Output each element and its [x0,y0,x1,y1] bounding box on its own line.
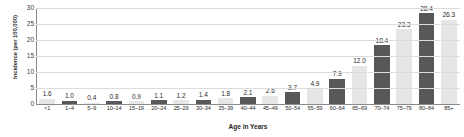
bar-value-label: 12.0 [353,58,366,65]
gridline [36,72,460,73]
gridline [36,24,460,25]
bar[interactable] [285,92,301,104]
bar-value-label: 1.8 [221,91,230,98]
gridline [36,8,460,9]
bar[interactable] [307,88,323,104]
x-tick-label: 25–29 [170,106,192,112]
x-tick-label: 1–4 [58,106,80,112]
y-axis-ticks: 051015202530 [17,8,34,104]
x-tick-label: 60–64 [326,106,348,112]
x-tick-label: 40–44 [237,106,259,112]
bar-value-label: 4.9 [310,81,319,88]
x-tick-label: 15–19 [125,106,147,112]
y-tick-label: 25 [27,21,34,28]
y-tick-label: 20 [27,37,34,44]
bar-value-label: 1.2 [177,93,186,100]
gridline [36,56,460,57]
y-tick-label: 30 [27,5,34,12]
bar-value-label: 2.6 [266,88,275,95]
x-tick-label: 5–9 [81,106,103,112]
bar-value-label: 0.9 [132,94,141,101]
bar-value-label: 1.1 [154,93,163,100]
bar-value-label: 0.4 [87,95,96,102]
y-tick-label: 15 [27,53,34,60]
x-tick-label: 70–74 [371,106,393,112]
y-tick-label: 5 [30,85,34,92]
x-tick-label: 85+ [438,106,460,112]
bar-value-label: 1.0 [65,93,74,100]
x-tick-label: 75–79 [393,106,415,112]
bar[interactable] [396,29,412,104]
x-tick-label: <1 [36,106,58,112]
y-tick-label: 10 [27,69,34,76]
bar-value-label: 26.3 [442,12,455,19]
x-tick-label: 50–54 [281,106,303,112]
x-tick-label: 80–84 [415,106,437,112]
x-tick-label: 55–59 [304,106,326,112]
x-axis-title: Age in Years [36,123,460,130]
bar-value-label: 1.4 [199,92,208,99]
bar[interactable] [329,79,345,104]
x-tick-label: 20–24 [148,106,170,112]
x-tick-label: 65–69 [348,106,370,112]
x-axis-ticks: <11–45–910–1415–1920–2425–2930–3435–3940… [36,106,460,112]
bar-value-label: 1.6 [43,91,52,98]
x-tick-label: 30–34 [192,106,214,112]
x-tick-label: 10–14 [103,106,125,112]
x-tick-label: 45–49 [259,106,281,112]
x-tick-label: 35–39 [215,106,237,112]
gridline [36,40,460,41]
bar[interactable] [441,20,457,104]
y-tick-label: 0 [30,101,34,108]
bar-value-label: 2.1 [243,90,252,97]
bar-value-label: 0.8 [110,94,119,101]
gridline [36,88,460,89]
bar-chart: Incidence (per 100,000) 051015202530 1.6… [0,0,464,137]
bar[interactable] [374,45,390,104]
bar[interactable] [419,13,435,104]
plot-area: 1.61.00.40.80.91.11.21.41.82.12.63.74.97… [36,8,460,104]
